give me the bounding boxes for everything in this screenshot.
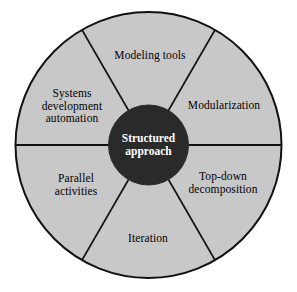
hub-circle bbox=[109, 105, 189, 185]
structured-approach-wheel-diagram: Modeling tools Modularization Top-down d… bbox=[0, 0, 297, 292]
wheel-graphic bbox=[0, 0, 297, 292]
